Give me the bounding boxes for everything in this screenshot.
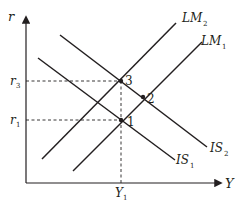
point-1-label: 1 [127, 115, 135, 129]
svg-text:LM: LM [200, 34, 222, 48]
point-1-marker [119, 118, 123, 122]
svg-text:IS: IS [209, 141, 223, 155]
y1-tick-label: Y 1 [115, 186, 127, 202]
svg-text:1: 1 [190, 162, 194, 170]
point-3-marker [119, 79, 123, 83]
lm2-curve [42, 23, 176, 159]
svg-text:IS: IS [175, 153, 189, 167]
point-3-label: 3 [125, 74, 133, 88]
is2-label: IS 2 [209, 141, 228, 158]
y-axis-label: r [8, 9, 15, 24]
svg-text:1: 1 [222, 43, 226, 51]
svg-text:3: 3 [16, 82, 20, 90]
is1-label: IS 1 [175, 153, 194, 170]
svg-text:1: 1 [16, 121, 20, 129]
r1-tick-label: r 1 [10, 113, 20, 129]
svg-text:2: 2 [203, 20, 207, 28]
x-axis-label: Y [225, 176, 235, 191]
lm2-label: LM 2 [181, 11, 207, 28]
r3-tick-label: r 3 [10, 74, 20, 90]
is1-curve [38, 58, 175, 160]
svg-text:1: 1 [123, 194, 127, 202]
is-lm-diagram: r Y 3 2 1 r 3 r 1 Y 1 LM 2 LM 1 IS 2 IS … [0, 0, 243, 211]
lm1-label: LM 1 [200, 34, 226, 51]
point-2-marker [141, 95, 145, 99]
svg-text:LM: LM [181, 11, 203, 25]
point-2-label: 2 [147, 92, 155, 106]
svg-text:2: 2 [224, 150, 228, 158]
